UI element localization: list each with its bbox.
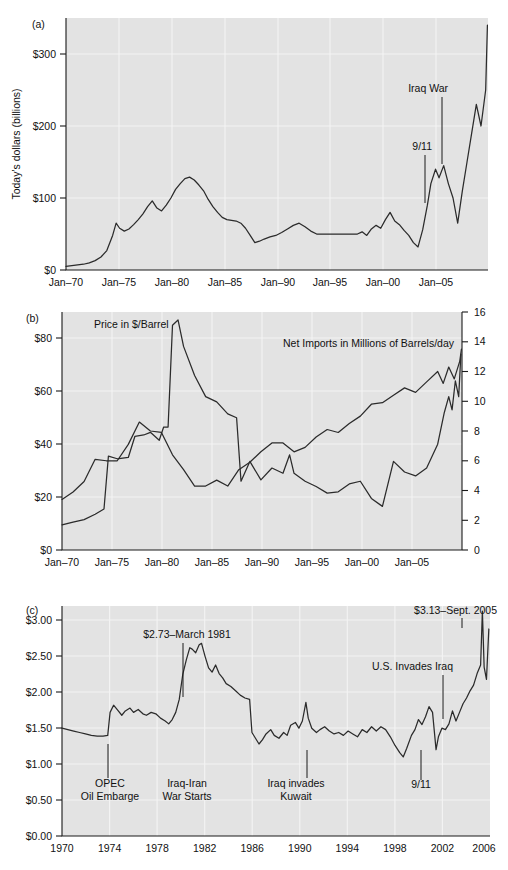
panel-a-letter: (a)	[32, 18, 45, 30]
panel-b-xtick-1: Jan–75	[95, 556, 130, 568]
panel-c-xtick-3: 1982	[193, 842, 217, 854]
panel-b-ytick-left-2: $40	[34, 438, 52, 450]
panel-b-xtick-2: Jan–80	[145, 556, 180, 568]
panel-c-annot-invades-label: U.S. Invades Iraq	[372, 660, 453, 672]
panel-c-annotation-iraq-iran-war: Iraq-Iran War Starts	[162, 777, 211, 802]
panel-c-ytick-0: $0.00	[26, 830, 52, 842]
panel-c-ytick-2: $1.00	[26, 758, 52, 770]
panel-b-ytick-left-4: $80	[34, 332, 52, 344]
panel-c-annot-iraqiran-line2: War Starts	[162, 790, 211, 802]
panel-c-ytick-3: $1.50	[26, 722, 52, 734]
panel-c-annot-2005-label: $3.13–Sept. 2005	[414, 604, 497, 616]
panel-b-ytick-right-3: 6	[474, 454, 480, 466]
panel-c-annot-kuwait-line2: Kuwait	[280, 790, 312, 802]
panel-b-right-tickmarks	[462, 312, 468, 550]
panel-b-label-price: Price in $/Barrel	[94, 318, 169, 330]
panel-c-ytick-5: $2.50	[26, 650, 52, 662]
panel-a-xtick-3: Jan–85	[208, 276, 243, 288]
panel-c-annot-iraqiran-line1: Iraq-Iran	[167, 777, 207, 789]
panel-b-ytick-left-0: $0	[40, 544, 52, 556]
panel-c-xtick-5: 1990	[288, 842, 312, 854]
panel-b-ytick-right-4: 8	[474, 425, 480, 437]
panel-a-xtick-0: Jan–70	[49, 276, 84, 288]
panel-c-annot-opec-line2: Oil Embarge	[81, 790, 140, 802]
panel-b-xtick-3: Jan–85	[195, 556, 230, 568]
panel-b-xtick-0: Jan–70	[45, 556, 80, 568]
panel-a-y-tickmarks	[60, 54, 66, 270]
panel-a-xtick-5: Jan–95	[313, 276, 348, 288]
panel-b-xtick-7: Jan–05	[395, 556, 430, 568]
panel-b-xtick-5: Jan–95	[295, 556, 330, 568]
panel-c-annot-opec-line1: OPEC	[95, 777, 125, 789]
panel-a-xtick-4: Jan–90	[261, 276, 296, 288]
panel-b-ytick-right-0: 0	[474, 544, 480, 556]
panel-b-label-imports: Net Imports in Millions of Barrels/day	[283, 337, 455, 349]
panel-b-xtick-6: Jan–00	[345, 556, 380, 568]
panel-a-svg: $0 $100 $200 $300 Jan–70 Jan–75 Jan–80 J…	[0, 0, 508, 300]
panel-a: $0 $100 $200 $300 Jan–70 Jan–75 Jan–80 J…	[0, 0, 508, 300]
panel-b-ytick-left-3: $60	[34, 385, 52, 397]
panel-a-ytick-0: $0	[44, 264, 56, 276]
panel-c-xtick-9: 2006	[472, 842, 496, 854]
panel-c: $0.00 $0.50 $1.00 $1.50 $2.00 $2.50 $3.0…	[0, 592, 508, 870]
panel-b-ytick-right-1: 2	[474, 514, 480, 526]
panel-c-xtick-8: 2002	[431, 842, 455, 854]
panel-c-ytick-4: $2.00	[26, 686, 52, 698]
panel-b-ytick-right-7: 14	[474, 335, 486, 347]
panel-b-letter: (b)	[26, 312, 39, 324]
panel-b-left-tickmarks	[56, 338, 62, 550]
panel-a-xtick-7: Jan–05	[419, 276, 454, 288]
panel-a-ytick-1: $100	[33, 192, 57, 204]
panel-c-xtick-1: 1974	[98, 842, 122, 854]
panel-a-annot-911-label: 9/11	[412, 140, 432, 152]
panel-a-ytick-2: $200	[33, 120, 57, 132]
panel-c-annot-kuwait-line1: Iraq invades	[267, 777, 324, 789]
panel-a-y-axis-title: Today's dollars (billions)	[10, 88, 22, 199]
panel-c-letter: (c)	[26, 604, 38, 616]
panel-b-ytick-right-6: 12	[474, 365, 486, 377]
panel-b-xtick-4: Jan–90	[245, 556, 280, 568]
panel-b-ytick-right-5: 10	[474, 395, 486, 407]
panel-c-svg: $0.00 $0.50 $1.00 $1.50 $2.00 $2.50 $3.0…	[0, 592, 508, 870]
panel-b-svg: $0 $20 $40 $60 $80 0 2 4 6 8 10 12 14 16…	[0, 292, 508, 590]
panel-a-xtick-6: Jan–00	[366, 276, 401, 288]
panel-c-y-tickmarks	[56, 620, 62, 836]
panel-b-ytick-right-2: 4	[474, 484, 480, 496]
figure-page: $0 $100 $200 $300 Jan–70 Jan–75 Jan–80 J…	[0, 0, 508, 870]
panel-c-xtick-0: 1970	[50, 842, 74, 854]
panel-c-xtick-2: 1978	[145, 842, 169, 854]
panel-b: $0 $20 $40 $60 $80 0 2 4 6 8 10 12 14 16…	[0, 292, 508, 590]
panel-c-xtick-4: 1986	[241, 842, 265, 854]
panel-c-xtick-7: 1998	[383, 842, 407, 854]
panel-a-ytick-3: $300	[33, 48, 57, 60]
panel-a-annot-iraq-war-label: Iraq War	[408, 82, 448, 94]
panel-b-ytick-left-1: $20	[34, 491, 52, 503]
panel-b-ytick-right-8: 16	[474, 306, 486, 318]
panel-c-ytick-1: $0.50	[26, 794, 52, 806]
panel-c-xtick-6: 1994	[336, 842, 360, 854]
panel-c-annot-1981-label: $2.73–March 1981	[143, 628, 231, 640]
panel-a-xtick-1: Jan–75	[102, 276, 137, 288]
panel-a-xtick-2: Jan–80	[155, 276, 190, 288]
